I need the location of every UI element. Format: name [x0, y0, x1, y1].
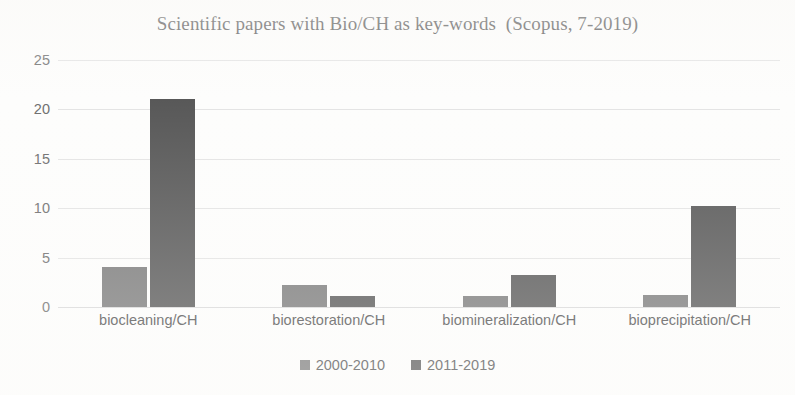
y-tick-label-20: 20	[0, 101, 50, 117]
chart-legend: 2000-20102011-2019	[0, 357, 795, 373]
legend-item-2000-2010[interactable]: 2000-2010	[300, 357, 385, 373]
y-tick-label-0: 0	[0, 299, 50, 315]
x-tick-label-4: bioprecipitation/CH	[628, 312, 751, 328]
bar-biomineralization-CH-2000-2010	[463, 296, 508, 307]
x-axis: biocleaning/CHbiorestoration/CHbiominera…	[58, 312, 780, 338]
y-tick-label-10: 10	[0, 200, 50, 216]
y-tick-label-25: 25	[0, 52, 50, 68]
legend-item-2011-2019[interactable]: 2011-2019	[411, 357, 495, 373]
chart-title: Scientific papers with Bio/CH as key-wor…	[0, 13, 795, 35]
legend-swatch-icon-2000-2010	[300, 360, 310, 370]
gridline-25	[58, 60, 780, 61]
bar-biocleaning-CH-2000-2010	[102, 267, 147, 308]
plot-area	[58, 60, 780, 307]
bar-biorestoration-CH-2011-2019	[330, 296, 375, 307]
x-tick-label-3: biomineralization/CH	[442, 312, 576, 328]
gridline-0	[58, 307, 780, 308]
y-tick-label-15: 15	[0, 151, 50, 167]
legend-label-2000-2010: 2000-2010	[316, 357, 385, 373]
bar-biomineralization-CH-2011-2019	[511, 275, 556, 307]
x-tick-label-2: biorestoration/CH	[272, 312, 385, 328]
bar-biorestoration-CH-2000-2010	[282, 285, 327, 307]
x-tick-label-1: biocleaning/CH	[99, 312, 197, 328]
y-axis: 0510152025	[0, 60, 50, 307]
legend-swatch-icon-2011-2019	[411, 360, 421, 370]
bar-biocleaning-CH-2011-2019	[150, 99, 195, 307]
bar-bioprecipitation-CH-2011-2019	[691, 206, 736, 307]
chart-figure: Scientific papers with Bio/CH as key-wor…	[0, 0, 795, 395]
y-tick-label-5: 5	[0, 250, 50, 266]
legend-label-2011-2019: 2011-2019	[427, 357, 495, 373]
bar-bioprecipitation-CH-2000-2010	[643, 295, 688, 307]
